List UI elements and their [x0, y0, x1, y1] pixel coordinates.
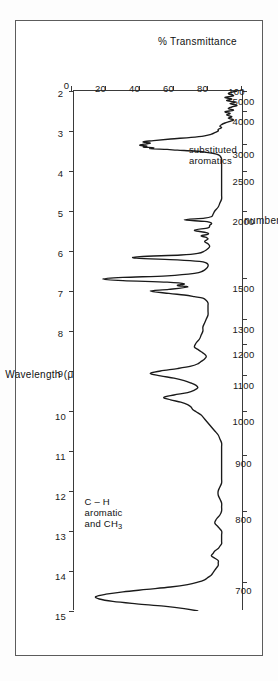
wavelength-tick-label: 5: [58, 208, 63, 219]
wavelength-tick: [69, 411, 74, 412]
wavenumber-tick-label: 1100: [233, 379, 254, 390]
wavelength-tick: [69, 571, 74, 572]
wavenumber-tick: [242, 455, 247, 456]
wavenumber-tick: [242, 277, 247, 278]
transmittance-tick-label: 0: [64, 80, 69, 91]
wavelength-tick-label: 15: [55, 610, 66, 621]
wavenumber-tick-label: 800: [235, 513, 251, 524]
annotation-ch-aromatic: C – H aromatic and CH3: [85, 495, 123, 532]
wavenumber-tick: [242, 511, 247, 512]
wavenumber-tick: [242, 374, 247, 375]
transmittance-tick-label: 40: [129, 82, 140, 93]
wavenumber-tick-label: 1200: [233, 349, 255, 360]
annotation-ch-subscript: 3: [118, 522, 122, 531]
wavenumber-tick: [242, 344, 247, 345]
annotation-ch-line3: and CH3: [85, 517, 123, 532]
wavenumber-tick: [242, 111, 247, 112]
transmittance-tick: [71, 86, 72, 91]
wavelength-tick: [69, 451, 74, 452]
transmittance-tick-label: 80: [197, 82, 208, 93]
spectrum-trace: [95, 91, 237, 611]
annotation-ch-line1: C – H: [85, 495, 123, 506]
transmittance-tick-label: 60: [163, 82, 174, 93]
annotation-substituted-aromatics: substituted aromatics: [189, 144, 237, 166]
annotation-ch-line3-text: and CH: [85, 517, 118, 528]
wavelength-tick: [69, 331, 74, 332]
wavelength-tick-label: 4: [58, 168, 63, 179]
wavelength-tick-label: 3: [58, 128, 63, 139]
wavenumber-tick: [242, 144, 247, 145]
wavenumber-tick-label: 1000: [233, 416, 255, 427]
annotation-aromatics-line2: aromatics: [189, 155, 237, 166]
wavenumber-tick: [242, 411, 247, 412]
wavenumber-tick: [242, 582, 247, 583]
annotation-ch-line2: aromatic: [85, 506, 123, 517]
wavenumber-tick: [242, 318, 247, 319]
wavenumber-tick: [242, 211, 247, 212]
wavelength-tick-label: 10: [55, 410, 66, 421]
wavenumber-tick-label: 2000: [233, 216, 255, 227]
wavelength-tick-label: 6: [58, 248, 63, 259]
wavelength-tick: [69, 611, 74, 612]
wavelength-tick: [69, 491, 74, 492]
wavenumber-tick-label: 5000: [233, 96, 255, 107]
wavelength-tick-label: 12: [55, 490, 66, 501]
wavenumber-tick-label: 2500: [233, 176, 255, 187]
transmittance-tick-label: 100: [228, 85, 244, 96]
wavenumber-tick-label: 900: [235, 458, 251, 469]
figure-page: Wave number ṽ Wavelength (μm) % Transmit…: [0, 0, 278, 681]
transmittance-axis-title: % Transmittance: [158, 36, 237, 47]
wavelength-tick: [69, 251, 74, 252]
wavelength-tick: [69, 291, 74, 292]
wavelength-tick-label: 7: [58, 288, 63, 299]
wavelength-tick-label: 11: [55, 450, 65, 461]
wavelength-tick: [69, 371, 74, 372]
wavenumber-tick-label: 1500: [233, 283, 255, 294]
wavelength-tick-label: 8: [58, 328, 63, 339]
wavelength-tick-label: 9: [58, 368, 63, 379]
transmittance-tick-label: 20: [95, 82, 106, 93]
annotation-aromatics-line1: substituted: [189, 144, 237, 155]
wavelength-tick: [69, 171, 74, 172]
wavenumber-tick-label: 3000: [233, 149, 255, 160]
wavenumber-tick-label: 700: [235, 585, 251, 596]
wavenumber-tick-label: 4000: [233, 116, 255, 127]
wavelength-tick-label: 14: [55, 570, 66, 581]
wavenumber-tick-label: 1300: [233, 324, 255, 335]
wavelength-tick: [69, 531, 74, 532]
ir-spectrum-chart: Wave number ṽ Wavelength (μm) % Transmit…: [21, 34, 257, 648]
wavelength-tick-label: 13: [55, 530, 66, 541]
plot-area: substituted aromatics C – H aromatic and…: [73, 90, 243, 610]
wavelength-tick: [69, 131, 74, 132]
wavelength-tick: [69, 211, 74, 212]
wavelength-tick-label: 2: [58, 88, 63, 99]
wavenumber-tick: [242, 171, 247, 172]
rotated-chart-stage: Wave number ṽ Wavelength (μm) % Transmit…: [21, 34, 257, 648]
spectrum-curve: [72, 91, 242, 611]
